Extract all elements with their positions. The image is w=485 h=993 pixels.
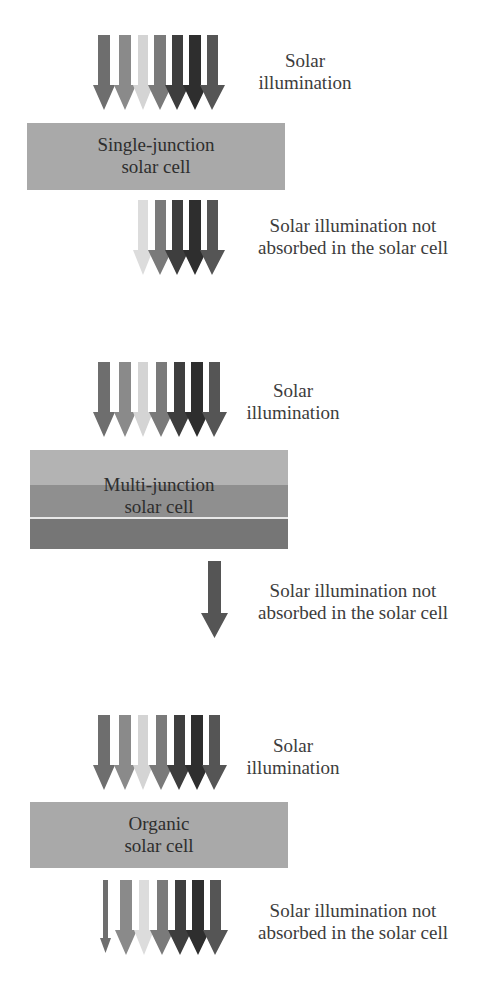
arrow-down-icon: [93, 715, 227, 790]
arrow-down-icon: [93, 362, 227, 437]
organic-cell: Organic solar cell: [30, 802, 288, 868]
transmitted-arrows: [133, 200, 225, 275]
multi-junction-cell: Multi-junction solar cell: [30, 450, 288, 549]
cell-label: Single-junction solar cell: [27, 134, 285, 178]
layer-divider: [30, 517, 288, 519]
outgoing-label: Solar illumination not absorbed in the s…: [238, 215, 468, 259]
top-junction-layer: [30, 450, 288, 485]
single-junction-cell: Single-junction solar cell: [27, 123, 285, 190]
incoming-label: Solar illumination: [238, 380, 348, 424]
incoming-label: Solar illumination: [238, 735, 348, 779]
cell-label: Organic solar cell: [30, 813, 288, 857]
middle-junction-layer: [30, 485, 288, 517]
arrow-down-icon: [93, 35, 225, 110]
transmitted-arrows: [100, 880, 228, 955]
cell-label: Multi-junction solar cell: [30, 474, 288, 518]
transmitted-arrow: [201, 561, 228, 638]
outgoing-label: Solar illumination not absorbed in the s…: [238, 580, 468, 624]
single-junction-section: Solar illumination Single-junction solar…: [0, 0, 485, 300]
outgoing-label: Solar illumination not absorbed in the s…: [238, 900, 468, 944]
bottom-junction-layer: [30, 519, 288, 549]
incoming-label: Solar illumination: [250, 50, 360, 94]
